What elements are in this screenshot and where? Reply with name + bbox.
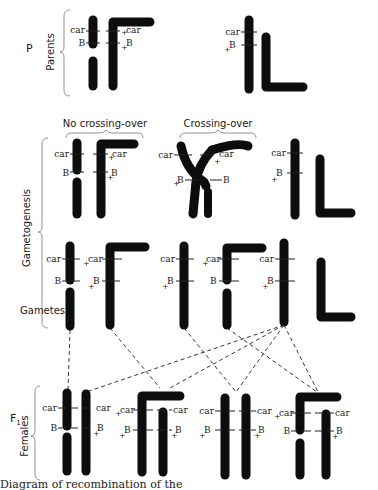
- f1-row: F1 Females car B car + B + car + B car: [10, 386, 350, 480]
- locus-label-car: car: [199, 406, 214, 416]
- locus-label-B: B: [111, 168, 118, 178]
- locus-label-car: car: [42, 403, 57, 413]
- p-row: P Parents car B + car + B car + B: [26, 10, 303, 96]
- locus-label-B: B: [50, 423, 57, 433]
- locus-label-car: car: [257, 406, 272, 416]
- group-label-females: Females: [19, 415, 30, 456]
- locus-label-car: car: [271, 148, 286, 158]
- locus-label-car: car: [88, 254, 103, 264]
- locus-label-B: B: [283, 426, 290, 436]
- chromosome-hooked: [266, 37, 303, 87]
- locus-label-B: B: [167, 276, 174, 286]
- brace-no-crossing-over: [66, 130, 143, 138]
- locus-label-car: car: [70, 25, 85, 35]
- locus-label-car: car: [120, 405, 135, 415]
- brace-crossing-over: [180, 130, 256, 138]
- f1-female-3: car + B car + B: [199, 398, 272, 475]
- heading-crossing-over: Crossing-over: [184, 118, 254, 129]
- recombination-diagram: P Parents car B + car + B car + B: [0, 0, 378, 490]
- tetrad-no-crossover: car B + car + B: [54, 143, 134, 214]
- locus-label-B: B: [267, 276, 274, 286]
- brace-gametogenesis: [38, 138, 48, 328]
- locus-label-car: car: [206, 254, 221, 264]
- locus-label-B: B: [204, 425, 211, 435]
- locus-label-car: car: [219, 149, 234, 159]
- locus-label-B: B: [62, 168, 69, 178]
- heading-no-crossing-over: No crossing-over: [63, 118, 148, 129]
- group-label-gametogenesis: Gametogenesis: [21, 189, 32, 267]
- locus-label-B: B: [210, 276, 217, 286]
- locus-label-B: B: [336, 426, 343, 436]
- locus-label-B: B: [276, 168, 283, 178]
- locus-label-car: car: [279, 408, 294, 418]
- locus-label-car: car: [335, 408, 350, 418]
- locus-label-B: B: [54, 276, 61, 286]
- f1-female-4: + car B car + B: [274, 397, 350, 475]
- locus-label-B: B: [175, 425, 182, 435]
- brace-females: [31, 386, 40, 480]
- locus-label-car: car: [126, 25, 141, 35]
- locus-label-B: B: [177, 175, 184, 185]
- locus-label-car: car: [173, 405, 188, 415]
- fertilization-lines: [68, 325, 318, 392]
- gametes-row: Gametes car B + car + B car + B + car B: [20, 243, 351, 326]
- locus-label-car: car: [54, 149, 69, 159]
- locus-label-B: B: [223, 175, 230, 185]
- tetrad-crossover: car + car + B B: [158, 145, 248, 214]
- parent-pair-1: car B + car + B: [70, 20, 150, 86]
- locus-label-B: B: [78, 38, 85, 48]
- parent-pair-2: car + B: [224, 20, 303, 89]
- f1-female-1: car B car + B: [42, 393, 111, 471]
- locus-label-car: car: [46, 254, 61, 264]
- f1-female-2: + car + B car + B: [115, 396, 188, 472]
- locus-label-car: car: [225, 27, 240, 37]
- gamete-chromosome: [227, 248, 262, 280]
- gamete-chromosome-y: [321, 262, 351, 317]
- locus-label-B: B: [126, 38, 133, 48]
- locus-label-car: car: [96, 403, 111, 413]
- locus-label-B: B: [124, 425, 131, 435]
- locus-label-car: car: [259, 254, 274, 264]
- locus-label-car: car: [112, 149, 127, 159]
- tetrad-right: car + B: [271, 143, 351, 215]
- locus-label-car: car: [160, 254, 175, 264]
- generation-label-p: P: [26, 42, 33, 55]
- locus-label-B: B: [97, 423, 104, 433]
- figure-caption: Diagram of recombination of the: [0, 478, 378, 490]
- locus-label-B: B: [258, 425, 265, 435]
- group-label-gametes: Gametes: [20, 305, 65, 316]
- group-label-parents: Parents: [45, 33, 56, 70]
- locus-label-car: car: [158, 150, 173, 160]
- locus-label-B: B: [229, 40, 236, 50]
- locus-label-B: B: [93, 276, 100, 286]
- brace-parents: [60, 10, 70, 96]
